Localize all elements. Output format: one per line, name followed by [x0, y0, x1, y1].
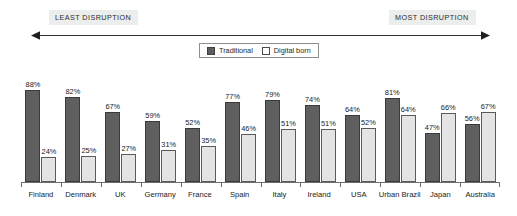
- bar-traditional[interactable]: 67%: [105, 112, 120, 182]
- bar-traditional[interactable]: 88%: [25, 90, 40, 182]
- bar-value-label: 52%: [361, 118, 376, 127]
- bar-digital-born[interactable]: 27%: [121, 154, 136, 182]
- bar-digital-born[interactable]: 67%: [481, 112, 496, 182]
- category-label: UK: [101, 190, 141, 206]
- bar-wrapper: 52%: [185, 66, 200, 182]
- bar-value-label: 51%: [281, 119, 296, 128]
- bar-wrapper: 24%: [41, 66, 56, 182]
- bar-wrapper: 25%: [81, 66, 96, 182]
- bar-group: 74%51%: [300, 66, 340, 182]
- bar-value-label: 67%: [105, 102, 120, 111]
- category-label: Australia: [460, 190, 500, 206]
- bar-digital-born[interactable]: 51%: [281, 129, 296, 182]
- bar-traditional[interactable]: 47%: [425, 133, 440, 182]
- bar-value-label: 52%: [185, 118, 200, 127]
- bar-group: 81%64%: [380, 66, 420, 182]
- bar-value-label: 81%: [385, 88, 400, 97]
- bar-value-label: 82%: [65, 87, 80, 96]
- bar-value-label: 66%: [441, 103, 456, 112]
- bar-value-label: 31%: [161, 140, 176, 149]
- bar-wrapper: 67%: [481, 66, 496, 182]
- bar-value-label: 67%: [481, 102, 496, 111]
- bar-wrapper: 64%: [401, 66, 416, 182]
- bar-traditional[interactable]: 64%: [345, 115, 360, 182]
- legend-label-traditional: Traditional: [219, 46, 253, 55]
- bar-value-label: 79%: [265, 90, 280, 99]
- bar-digital-born[interactable]: 46%: [241, 134, 256, 182]
- axis-tick: [300, 182, 301, 187]
- axis-tick: [101, 182, 102, 187]
- bar-value-label: 88%: [26, 80, 41, 89]
- bar-digital-born[interactable]: 64%: [401, 115, 416, 182]
- bar-wrapper: 79%: [265, 66, 280, 182]
- bar-wrapper: 67%: [105, 66, 120, 182]
- bar-value-label: 51%: [321, 119, 336, 128]
- category-label: Spain: [220, 190, 260, 206]
- bar-digital-born[interactable]: 51%: [321, 129, 336, 182]
- bar-digital-born[interactable]: 52%: [361, 128, 376, 182]
- category-label: Urban Brazil: [379, 190, 421, 206]
- legend-item-digital-born: Digital born: [262, 46, 311, 55]
- bar-value-label: 47%: [425, 123, 440, 132]
- bar-value-label: 74%: [305, 95, 320, 104]
- legend-swatch-digital-born-icon: [262, 47, 270, 55]
- bar-value-label: 27%: [121, 144, 136, 153]
- legend-item-traditional: Traditional: [207, 46, 253, 55]
- bar-traditional[interactable]: 74%: [305, 105, 320, 182]
- bar-digital-born[interactable]: 66%: [441, 113, 456, 182]
- axis-tick: [61, 182, 62, 187]
- legend-swatch-traditional-icon: [207, 47, 215, 55]
- bar-value-label: 35%: [201, 136, 216, 145]
- bar-wrapper: 51%: [281, 66, 296, 182]
- bar-group: 88%24%: [21, 66, 61, 182]
- axis-tick: [261, 182, 262, 187]
- bar-digital-born[interactable]: 24%: [41, 157, 56, 182]
- bar-traditional[interactable]: 59%: [145, 121, 160, 182]
- bar-digital-born[interactable]: 31%: [161, 150, 176, 182]
- bar-digital-born[interactable]: 35%: [201, 146, 216, 182]
- axis-tick: [460, 182, 461, 187]
- bar-group: 56%67%: [460, 66, 500, 182]
- bar-group: 64%52%: [340, 66, 380, 182]
- bar-traditional[interactable]: 82%: [65, 97, 80, 182]
- category-label: Germany: [140, 190, 180, 206]
- bar-traditional[interactable]: 77%: [225, 102, 240, 182]
- bar-group: 79%51%: [261, 66, 301, 182]
- bar-traditional[interactable]: 79%: [265, 100, 280, 182]
- bar-wrapper: 47%: [425, 66, 440, 182]
- double-headed-arrow-icon: [31, 30, 490, 41]
- disruption-scale-band: LEAST DISRUPTION MOST DISRUPTION: [0, 0, 517, 40]
- bar-digital-born[interactable]: 25%: [81, 156, 96, 182]
- plot-area: 88%24%82%25%67%27%59%31%52%35%77%46%79%5…: [21, 66, 500, 182]
- bar-wrapper: 35%: [201, 66, 216, 182]
- bar-wrapper: 66%: [441, 66, 456, 182]
- bar-traditional[interactable]: 52%: [185, 128, 200, 182]
- bar-group: 82%25%: [61, 66, 101, 182]
- category-label: USA: [339, 190, 379, 206]
- x-axis-ticks: [21, 182, 500, 187]
- category-label: Finland: [21, 190, 61, 206]
- bar-group: 67%27%: [101, 66, 141, 182]
- bar-wrapper: 81%: [385, 66, 400, 182]
- axis-tick: [499, 182, 500, 187]
- axis-tick: [420, 182, 421, 187]
- chart-legend: Traditional Digital born: [199, 43, 319, 58]
- category-label: Ireland: [299, 190, 339, 206]
- bar-traditional[interactable]: 81%: [385, 98, 400, 182]
- bar-value-label: 64%: [401, 105, 416, 114]
- category-label: France: [180, 190, 220, 206]
- bar-value-label: 46%: [241, 124, 256, 133]
- bar-wrapper: 82%: [65, 66, 80, 182]
- least-disruption-label: LEAST DISRUPTION: [49, 10, 138, 25]
- axis-tick: [340, 182, 341, 187]
- bar-wrapper: 52%: [361, 66, 376, 182]
- bar-wrapper: 64%: [345, 66, 360, 182]
- bar-wrapper: 56%: [465, 66, 480, 182]
- category-label: Japan: [421, 190, 461, 206]
- bar-wrapper: 74%: [305, 66, 320, 182]
- axis-tick: [181, 182, 182, 187]
- axis-tick: [21, 182, 22, 187]
- bar-group: 47%66%: [420, 66, 460, 182]
- bar-traditional[interactable]: 56%: [465, 124, 480, 182]
- bar-value-label: 25%: [81, 146, 96, 155]
